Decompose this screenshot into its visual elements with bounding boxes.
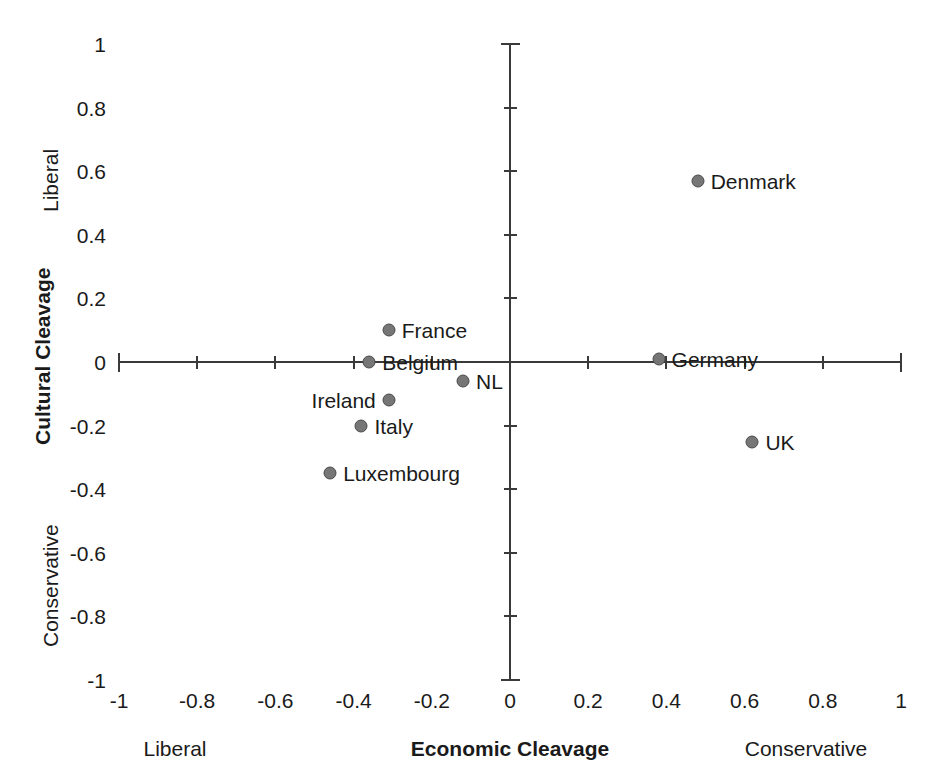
y-tick-label--0.4: -0.4 [38,479,106,500]
y-tick--0.6 [504,552,517,554]
y-tick--0.4 [504,488,517,490]
x-tick-label-0.2: 0.2 [574,690,603,711]
data-point-uk[interactable] [746,435,759,448]
y-axis-title: Cultural Cleavage [32,268,53,445]
y-tick-label-1: 1 [38,34,106,55]
x-tick-label-0.6: 0.6 [730,690,759,711]
data-point-germany[interactable] [652,352,665,365]
y-tick--0.2 [504,425,517,427]
y-axis-pole-conservative: Conservative [40,524,61,647]
y-tick-label-0.4: 0.4 [38,224,106,245]
y-tick-0.4 [504,234,517,236]
data-point-ireland[interactable] [382,394,395,407]
x-axis-pole-liberal: Liberal [143,738,206,759]
y-axis-pole-liberal: Liberal [40,149,61,212]
x-tick--1 [118,353,120,372]
x-tick-label--0.4: -0.4 [336,690,372,711]
x-tick-label--0.8: -0.8 [179,690,215,711]
x-axis-pole-conservative: Conservative [745,738,868,759]
x-axis-title: Economic Cleavage [411,738,609,759]
x-tick-label-0.4: 0.4 [652,690,681,711]
x-tick-label-1: 1 [895,690,907,711]
y-tick-0.6 [504,170,517,172]
y-tick-0.8 [504,107,517,109]
x-tick-label--0.6: -0.6 [257,690,293,711]
data-point-nl[interactable] [457,375,470,388]
x-tick-label-0.8: 0.8 [808,690,837,711]
x-tick--0.8 [196,356,198,369]
x-tick-label--1: -1 [110,690,129,711]
x-tick-0.8 [822,356,824,369]
plot-area: -1-0.8-0.6-0.4-0.200.20.40.60.8110.80.60… [0,0,932,780]
data-label-ireland: Ireland [312,390,376,411]
data-label-denmark: Denmark [711,170,796,191]
data-label-luxembourg: Luxembourg [343,463,460,484]
x-tick-0.2 [587,356,589,369]
y-tick-label-0.8: 0.8 [38,97,106,118]
x-tick--0.4 [353,356,355,369]
x-tick-0 [509,356,511,369]
y-tick-label--1: -1 [38,670,106,691]
data-point-italy[interactable] [355,419,368,432]
data-label-nl: NL [476,371,503,392]
y-tick-1 [501,43,520,45]
y-tick--1 [501,679,520,681]
y-tick-0.2 [504,297,517,299]
data-label-uk: UK [765,431,794,452]
x-tick-label--0.2: -0.2 [414,690,450,711]
x-tick-1 [900,353,902,372]
data-label-italy: Italy [374,415,413,436]
data-label-france: France [402,320,467,341]
x-tick-0.4 [665,356,667,369]
data-point-france[interactable] [382,324,395,337]
data-point-belgium[interactable] [363,356,376,369]
y-tick--0.8 [504,615,517,617]
data-point-luxembourg[interactable] [324,467,337,480]
scatter-plot-figure: -1-0.8-0.6-0.4-0.200.20.40.60.8110.80.60… [0,0,932,780]
x-tick--0.6 [274,356,276,369]
data-label-belgium: Belgium [382,352,458,373]
x-tick-label-0: 0 [504,690,516,711]
data-point-denmark[interactable] [691,174,704,187]
data-label-germany: Germany [672,348,758,369]
